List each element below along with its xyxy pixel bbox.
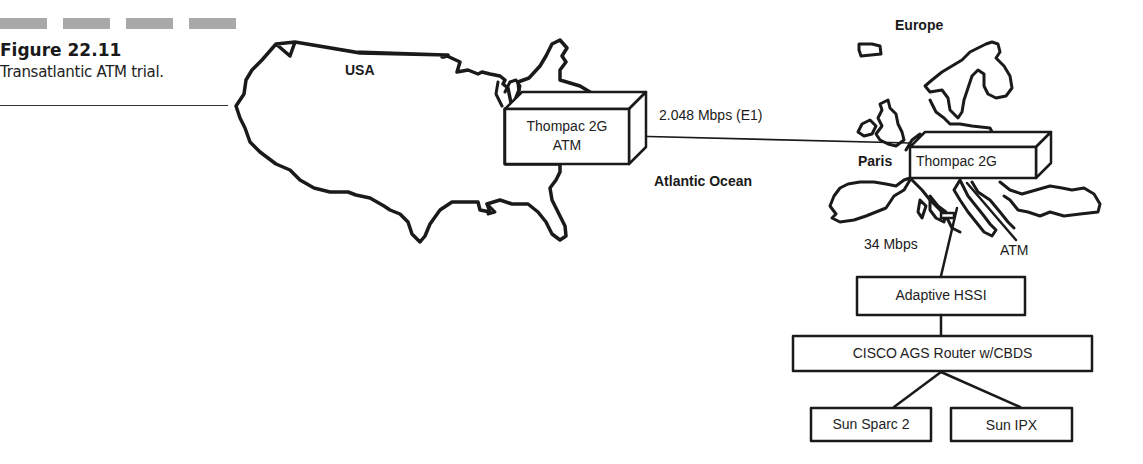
sparc-label: Sun Sparc 2 xyxy=(811,415,931,434)
us-switch-name: Thompac 2G xyxy=(505,117,629,136)
router-sparc-link xyxy=(894,372,941,407)
router-label: CISCO AGS Router w/CBDS xyxy=(793,344,1092,363)
british-isles-outline xyxy=(858,100,904,146)
link-connector xyxy=(941,213,954,218)
network-diagram xyxy=(0,0,1143,464)
e1-link-label: 2.048 Mbps (E1) xyxy=(659,107,763,123)
iceland-outline xyxy=(859,44,881,56)
atlantic-ocean-label: Atlantic Ocean xyxy=(654,173,752,189)
europe-map-outline xyxy=(925,42,1012,118)
us-switch-type: ATM xyxy=(505,136,629,155)
europe-label: Europe xyxy=(895,17,943,33)
paris-label: Paris xyxy=(858,153,892,169)
hssi-label: Adaptive HSSI xyxy=(857,286,1025,305)
atm-link-line xyxy=(967,183,1016,240)
usa-label: USA xyxy=(345,62,375,78)
34mbps-link-label: 34 Mbps xyxy=(864,236,918,252)
eu-switch-label: Thompac 2G xyxy=(910,152,1026,171)
router-ipx-link xyxy=(941,372,1020,407)
ipx-label: Sun IPX xyxy=(951,416,1072,435)
us-switch-label: Thompac 2G ATM xyxy=(505,117,629,155)
e1-link-line xyxy=(628,136,910,143)
atm-link-label: ATM xyxy=(1000,242,1029,258)
